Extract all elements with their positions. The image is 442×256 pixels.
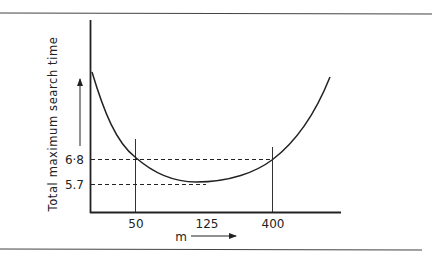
y-axis-label: Total maximum search time — [46, 37, 60, 213]
x-tick-125: 125 — [196, 217, 219, 231]
x-tick-50: 50 — [128, 217, 143, 231]
x-axis-label: m — [175, 230, 187, 244]
y-tick-6-8: 6·8 — [65, 153, 84, 167]
y-tick-5-7: 5.7 — [65, 178, 84, 192]
bottom-rule — [0, 249, 422, 250]
top-rule — [0, 13, 432, 14]
figure: 6·8 5.7 50 125 400 m Total maximum searc… — [0, 0, 442, 256]
search-time-curve — [92, 72, 330, 182]
x-tick-400: 400 — [262, 217, 285, 231]
